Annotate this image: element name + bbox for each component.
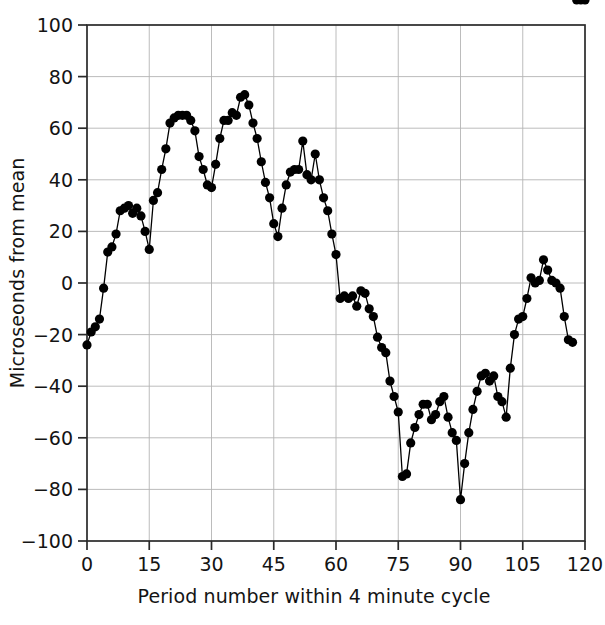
x-tick-label: 120 xyxy=(567,553,603,575)
data-point xyxy=(489,371,498,380)
data-point xyxy=(402,469,411,478)
y-tick-label: 80 xyxy=(49,66,73,88)
data-point xyxy=(136,211,145,220)
data-point xyxy=(369,312,378,321)
x-axis-label: Period number within 4 minute cycle xyxy=(34,585,594,607)
data-point xyxy=(207,183,216,192)
data-point xyxy=(518,312,527,321)
data-point xyxy=(423,400,432,409)
data-point xyxy=(394,407,403,416)
data-point xyxy=(273,232,282,241)
data-point xyxy=(124,201,133,210)
axis-ticks xyxy=(78,25,585,550)
data-point xyxy=(153,188,162,197)
data-point xyxy=(385,376,394,385)
data-point xyxy=(161,144,170,153)
y-tick-label: −80 xyxy=(33,478,73,500)
y-tick-label: −40 xyxy=(33,375,73,397)
data-point xyxy=(406,438,415,447)
y-tick-label: 40 xyxy=(49,169,73,191)
data-point xyxy=(269,219,278,228)
data-point xyxy=(190,126,199,135)
gridlines xyxy=(87,25,585,541)
chart-figure: Microseonds from mean −100−80−60−40−2002… xyxy=(0,0,605,625)
data-point xyxy=(497,397,506,406)
data-point xyxy=(307,175,316,184)
data-point xyxy=(132,204,141,213)
data-point xyxy=(248,118,257,127)
data-point xyxy=(282,180,291,189)
data-point xyxy=(535,276,544,285)
data-point xyxy=(298,137,307,146)
data-point xyxy=(244,100,253,109)
data-point xyxy=(473,387,482,396)
data-point xyxy=(568,338,577,347)
y-tick-label: 60 xyxy=(49,117,73,139)
data-point xyxy=(539,255,548,264)
y-tick-label: 0 xyxy=(61,272,73,294)
data-point xyxy=(360,289,369,298)
data-point xyxy=(294,165,303,174)
data-point xyxy=(91,322,100,331)
data-point xyxy=(390,392,399,401)
data-point xyxy=(194,152,203,161)
data-point xyxy=(199,165,208,174)
y-tick-label: −100 xyxy=(21,530,73,552)
x-tick-label: 30 xyxy=(199,553,223,575)
data-point xyxy=(431,410,440,419)
data-point xyxy=(99,284,108,293)
data-point xyxy=(211,160,220,169)
x-tick-label: 60 xyxy=(324,553,348,575)
x-tick-label: 105 xyxy=(505,553,541,575)
data-point xyxy=(240,90,249,99)
data-point xyxy=(224,116,233,125)
x-tick-labels: 0153045607590105120 xyxy=(81,553,603,575)
data-point xyxy=(443,413,452,422)
y-tick-label: −20 xyxy=(33,324,73,346)
y-tick-label: −60 xyxy=(33,427,73,449)
data-point xyxy=(373,333,382,342)
data-point xyxy=(543,266,552,275)
data-point xyxy=(481,369,490,378)
data-point xyxy=(352,302,361,311)
x-tick-label: 0 xyxy=(81,553,93,575)
data-point xyxy=(510,330,519,339)
data-point xyxy=(215,134,224,143)
data-line xyxy=(87,95,573,500)
data-point xyxy=(464,428,473,437)
data-point xyxy=(141,227,150,236)
data-point xyxy=(157,165,166,174)
data-point xyxy=(145,245,154,254)
x-tick-label: 75 xyxy=(386,553,410,575)
data-point xyxy=(506,364,515,373)
data-point xyxy=(149,196,158,205)
data-point xyxy=(381,348,390,357)
data-point xyxy=(560,312,569,321)
y-tick-labels: −100−80−60−40−20020406080100 xyxy=(21,14,73,552)
data-point xyxy=(522,294,531,303)
series-line xyxy=(87,95,573,500)
data-point xyxy=(502,413,511,422)
data-point xyxy=(456,495,465,504)
data-point xyxy=(323,206,332,215)
plot-area: −100−80−60−40−20020406080100 01530456075… xyxy=(0,0,605,625)
data-point xyxy=(448,428,457,437)
data-point xyxy=(95,315,104,324)
data-point xyxy=(348,291,357,300)
data-point xyxy=(265,193,274,202)
data-point xyxy=(468,405,477,414)
data-point xyxy=(452,436,461,445)
x-tick-label: 45 xyxy=(262,553,286,575)
data-point xyxy=(315,175,324,184)
data-point xyxy=(253,134,262,143)
data-point xyxy=(414,410,423,419)
data-point xyxy=(327,229,336,238)
data-point xyxy=(257,157,266,166)
data-point xyxy=(556,284,565,293)
data-point xyxy=(365,304,374,313)
data-point xyxy=(277,204,286,213)
data-point xyxy=(232,111,241,120)
data-point xyxy=(82,340,91,349)
data-point xyxy=(311,149,320,158)
data-point xyxy=(410,423,419,432)
